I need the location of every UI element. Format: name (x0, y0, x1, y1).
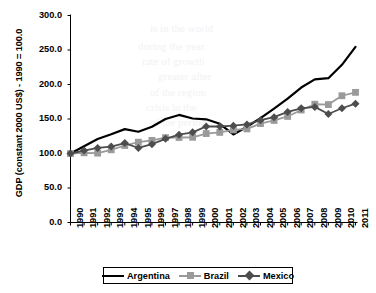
chart-legend: Argentina Brazil Mexico (103, 267, 293, 284)
x-axis-tick-label: 1992 (102, 207, 112, 227)
x-axis-tick-label: 2009 (333, 207, 343, 227)
legend-item-brazil[interactable]: Brazil (179, 270, 229, 281)
x-axis-tick-label: 1996 (156, 207, 166, 227)
y-axis-tick-label: 250.0 (22, 44, 62, 54)
y-axis-tick-label: 0.0 (22, 217, 62, 227)
x-axis-tick-label: 2000 (210, 207, 220, 227)
series-marker-brazil (339, 92, 346, 99)
x-axis-tick-label: 2003 (251, 207, 261, 227)
x-axis-tick-label: 2002 (238, 207, 248, 227)
y-axis-tick-label: 100.0 (22, 148, 62, 158)
x-axis-tick-label: 2005 (278, 207, 288, 227)
x-axis-tick-label: 1998 (183, 207, 193, 227)
series-marker-mexico (338, 104, 346, 112)
series-marker-mexico (352, 100, 360, 108)
series-marker-brazil (352, 89, 359, 96)
x-axis-tick-label: 1994 (129, 207, 139, 227)
y-axis-tick-label: 300.0 (22, 10, 62, 20)
x-axis-tick-label: 2010 (346, 207, 356, 227)
legend-swatch-brazil (179, 270, 201, 281)
x-axis-tick-label: 2001 (224, 207, 234, 227)
legend-label-mexico: Mexico (263, 271, 294, 281)
legend-swatch-mexico (238, 270, 260, 281)
series-line-argentina (71, 47, 356, 154)
x-axis-tick-label: 1993 (115, 207, 125, 227)
gdp-index-line-chart: GDP (constant 2000 US$) - 1990 = 100.0 i… (0, 0, 376, 293)
x-axis-tick-label: 1997 (170, 207, 180, 227)
series-marker-brazil (203, 130, 210, 137)
y-axis-tick-label: 150.0 (22, 113, 62, 123)
x-axis-tick-label: 2011 (360, 208, 370, 228)
x-axis-tick-label: 2007 (305, 207, 315, 227)
x-axis-tick-label: 1991 (88, 207, 98, 227)
series-marker-mexico (202, 122, 210, 130)
legend-label-argentina: Argentina (127, 271, 170, 281)
legend-swatch-argentina (102, 270, 124, 281)
legend-item-mexico[interactable]: Mexico (238, 270, 294, 281)
x-axis-tick-label: 1990 (75, 207, 85, 227)
x-axis-tick-label: 2004 (265, 207, 275, 227)
x-axis-tick-label: 1999 (197, 207, 207, 227)
x-axis-tick-label: 2008 (319, 207, 329, 227)
x-axis-tick-label: 2006 (292, 207, 302, 227)
legend-label-brazil: Brazil (204, 271, 229, 281)
series-marker-mexico (324, 110, 332, 118)
x-axis-tick-label: 1995 (143, 207, 153, 227)
series-marker-brazil (325, 101, 332, 108)
y-axis-tick-label: 50.0 (22, 182, 62, 192)
y-axis-tick-label: 200.0 (22, 79, 62, 89)
legend-item-argentina[interactable]: Argentina (102, 270, 170, 281)
